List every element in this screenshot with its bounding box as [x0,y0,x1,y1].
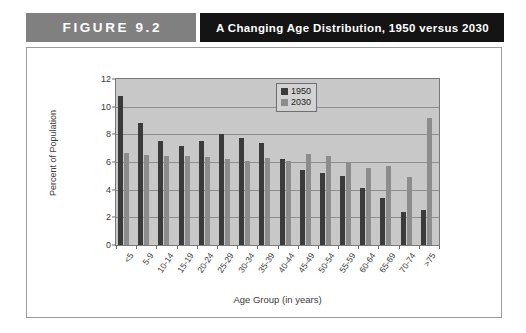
figure-number-tag: FIGURE 9.2 [26,13,196,42]
y-tick-label: 12 [101,74,111,84]
chart-legend: 1950 2030 [276,83,317,112]
bar-2030 [386,166,391,245]
bar-group [419,79,439,245]
x-tick-mark [136,245,137,249]
bar-2030 [326,156,331,245]
bar-1950 [239,138,244,245]
legend-swatch-1950 [281,88,288,95]
chart-area: Percent of Population 024681012 <55-910-… [27,48,503,319]
bar-2030 [427,118,432,245]
bar-1950 [179,146,184,245]
bar-group [177,79,197,245]
x-tick-mark [217,245,218,249]
x-tick-mark [419,245,420,249]
bar-2030 [245,161,250,245]
bar-group [136,79,156,245]
bar-2030 [346,162,351,245]
bar-group [399,79,419,245]
legend-swatch-2030 [281,99,288,106]
x-tick-mark [278,245,279,249]
bar-group [257,79,277,245]
bar-2030 [124,153,129,245]
bar-2030 [144,155,149,245]
bar-2030 [265,158,270,245]
bar-1950 [199,141,204,245]
bar-2030 [286,161,291,245]
bar-2030 [407,177,412,245]
bar-group [237,79,257,245]
x-tick-mark [156,245,157,249]
x-tick-mark [116,245,117,249]
x-axis-title: Age Group (in years) [115,294,440,305]
bar-group [156,79,176,245]
x-tick-mark [358,245,359,249]
x-tick-mark [439,245,440,249]
y-tick-label: 6 [106,157,111,167]
x-tick-mark [298,245,299,249]
bar-group [197,79,217,245]
legend-label-2030: 2030 [291,97,311,108]
legend-item-2030: 2030 [281,97,311,108]
bar-1950 [280,159,285,245]
y-axis-title: Percent of Population [48,78,58,228]
y-tick-label: 2 [106,212,111,222]
bar-group [318,79,338,245]
figure-panel: Percent of Population 024681012 <55-910-… [26,47,502,318]
bar-group [217,79,237,245]
y-tick-label: 0 [106,240,111,250]
bar-2030 [205,157,210,245]
figure-root: FIGURE 9.2 A Changing Age Distribution, … [0,0,526,333]
bar-group [116,79,136,245]
x-tick-mark [257,245,258,249]
y-tick-label: 8 [106,129,111,139]
legend-label-1950: 1950 [291,86,311,97]
x-tick-mark [318,245,319,249]
y-tick-label: 10 [101,102,111,112]
bar-2030 [164,156,169,245]
bar-2030 [366,168,371,245]
x-tick-mark [378,245,379,249]
figure-title: A Changing Age Distribution, 1950 versus… [200,13,504,42]
bar-2030 [225,159,230,245]
bar-2030 [306,154,311,245]
bar-group [358,79,378,245]
x-tick-mark [237,245,238,249]
x-tick-mark [177,245,178,249]
y-tick-label: 4 [106,185,111,195]
bar-1950 [158,141,163,245]
bar-2030 [185,156,190,245]
x-tick-mark [197,245,198,249]
bar-1950 [118,96,123,245]
x-tick-mark [399,245,400,249]
bar-group [338,79,358,245]
figure-header: FIGURE 9.2 A Changing Age Distribution, … [26,13,504,42]
bar-1950 [259,143,264,245]
bar-group [378,79,398,245]
x-tick-mark [338,245,339,249]
bar-1950 [138,123,143,245]
bar-1950 [219,134,224,245]
legend-item-1950: 1950 [281,86,311,97]
